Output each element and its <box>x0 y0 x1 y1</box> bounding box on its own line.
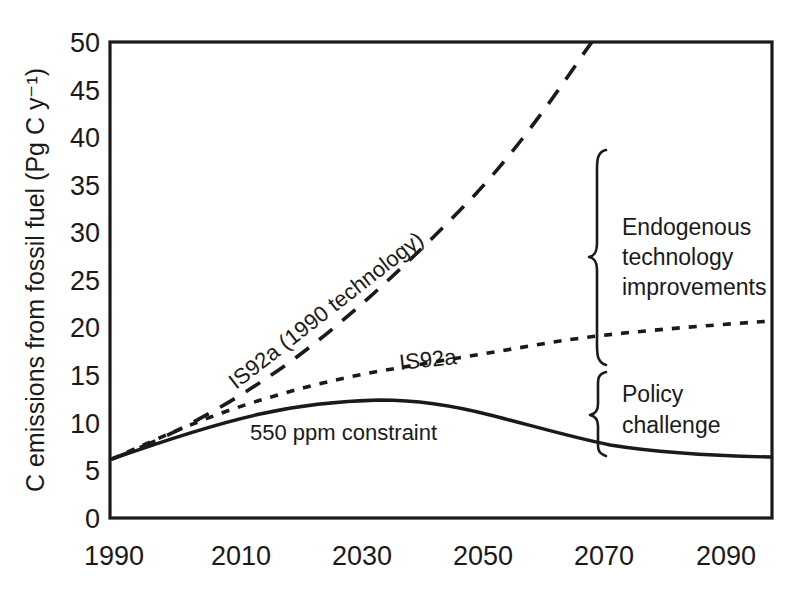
y-tick-label-35: 35 <box>70 171 100 201</box>
y-tick-label-0: 0 <box>85 504 100 534</box>
y-tick-label-40: 40 <box>70 123 100 153</box>
emissions-line-chart: C emissions from fossil fuel (Pg C y⁻¹) … <box>0 0 799 592</box>
y-tick-label-20: 20 <box>70 313 100 343</box>
series-label-is92a: IS92a <box>398 344 459 375</box>
chart-figure: C emissions from fossil fuel (Pg C y⁻¹) … <box>0 0 799 592</box>
x-tick-label-2010: 2010 <box>211 541 271 571</box>
x-tick-label-2030: 2030 <box>332 541 392 571</box>
series-label-550-ppm-constraint: 550 ppm constraint <box>250 420 437 445</box>
series-label-is92a-1990-technology: IS92a (1990 technology) <box>224 227 428 394</box>
x-tick-label-1990: 1990 <box>84 541 144 571</box>
y-axis-title: C emissions from fossil fuel (Pg C y⁻¹) <box>21 68 49 492</box>
y-tick-label-10: 10 <box>70 409 100 439</box>
annotation-endogenous-line-1: Endogenous <box>622 214 751 240</box>
y-tick-label-50: 50 <box>70 28 100 58</box>
y-tick-label-5: 5 <box>85 456 100 486</box>
annotation-policy-line-2: challenge <box>622 412 720 438</box>
y-tick-label-45: 45 <box>70 76 100 106</box>
brace-endogenous-technology <box>589 150 606 365</box>
y-tick-label-30: 30 <box>70 218 100 248</box>
x-tick-label-2050: 2050 <box>453 541 513 571</box>
annotation-endogenous-line-2: technology <box>622 244 734 270</box>
x-tick-label-2090: 2090 <box>696 541 756 571</box>
curve-is92a-1990-technology <box>112 0 640 459</box>
annotation-endogenous-line-3: improvements <box>622 274 766 300</box>
y-tick-label-15: 15 <box>70 361 100 391</box>
x-tick-label-2070: 2070 <box>574 541 634 571</box>
y-tick-label-25: 25 <box>70 266 100 296</box>
annotation-policy-line-1: Policy <box>622 381 684 407</box>
